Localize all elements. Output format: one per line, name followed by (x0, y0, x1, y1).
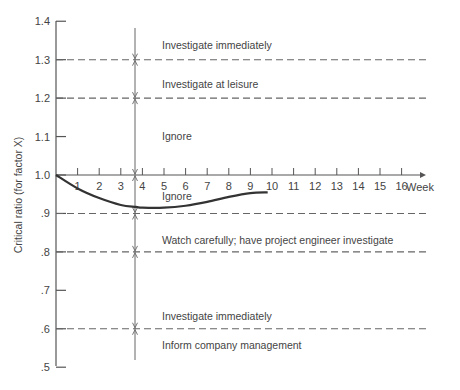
region-label: Investigate immediately (162, 39, 272, 51)
y-tick-label: .6 (41, 323, 50, 335)
region-label: Investigate immediately (162, 310, 272, 322)
y-tick-label: 1.4 (35, 15, 50, 27)
x-axis-label: Week (406, 181, 434, 193)
x-tick-label: 3 (118, 180, 124, 192)
x-axis-ticks: 12345678910111213141516 (75, 168, 408, 192)
y-tick-label: 1.1 (35, 131, 50, 143)
x-tick-label: 14 (352, 180, 364, 192)
x-tick-label: 4 (139, 180, 145, 192)
y-tick-label: 1.2 (35, 92, 50, 104)
y-tick-label: .9 (41, 207, 50, 219)
y-tick-label: 1.0 (35, 169, 50, 181)
region-label: Ignore (162, 190, 192, 202)
y-axis-ticks: 1.41.31.21.11.0.9.8.7.6.5 (35, 15, 66, 373)
y-tick-label: .7 (41, 284, 50, 296)
region-label: Inform company management (162, 339, 302, 351)
x-tick-label: 13 (331, 180, 343, 192)
region-label: Investigate at leisure (162, 78, 258, 90)
region-labels: Investigate immediatelyInvestigate at le… (162, 39, 393, 351)
region-label: Watch carefully; have project engineer i… (162, 234, 393, 246)
x-tick-label: 8 (226, 180, 232, 192)
x-tick-label: 10 (266, 180, 278, 192)
control-chart: 1.41.31.21.11.0.9.8.7.6.5 Critical ratio… (0, 0, 460, 390)
x-tick-label: 2 (96, 180, 102, 192)
x-axis-arrow-icon (420, 172, 426, 178)
region-label: Ignore (162, 130, 192, 142)
x-tick-label: 15 (374, 180, 386, 192)
y-tick-label: 1.3 (35, 54, 50, 66)
y-tick-label: .8 (41, 246, 50, 258)
x-tick-label: 12 (309, 180, 321, 192)
y-axis-label: Critical ratio (for factor X) (12, 137, 24, 254)
x-tick-label: 11 (288, 180, 299, 192)
x-tick-label: 7 (204, 180, 210, 192)
x-tick-label: 9 (247, 180, 253, 192)
y-tick-label: .5 (41, 361, 50, 373)
